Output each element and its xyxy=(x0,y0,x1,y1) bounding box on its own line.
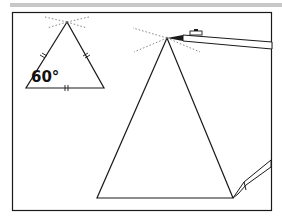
angle-label: 60° xyxy=(31,68,59,86)
pencil-icon xyxy=(167,29,272,49)
large-triangle xyxy=(97,28,233,198)
diagram-canvas xyxy=(0,0,282,221)
ruler-edge xyxy=(233,160,271,198)
